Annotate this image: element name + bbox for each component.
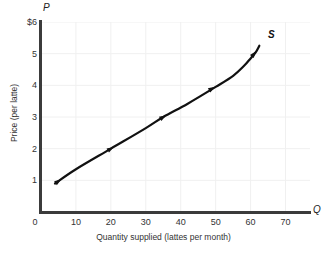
y-axis-line bbox=[39, 20, 42, 214]
x-tick-label: 70 bbox=[281, 217, 291, 227]
y-tick-label: $6 bbox=[27, 17, 37, 27]
x-tick-label: 60 bbox=[246, 217, 256, 227]
supply-curve-layer bbox=[41, 22, 310, 212]
x-tick-label: 10 bbox=[71, 217, 81, 227]
y-axis-title: Price (per latte) bbox=[9, 53, 19, 173]
y-tick-label: 5 bbox=[32, 49, 37, 59]
plot-area bbox=[41, 22, 310, 212]
x-axis-title: Quantity supplied (lattes per month) bbox=[0, 232, 327, 242]
y-tick-label: 3 bbox=[32, 112, 37, 122]
y-tick-label: 4 bbox=[32, 80, 37, 90]
y-tick-label: 2 bbox=[32, 144, 37, 154]
x-tick-label: 30 bbox=[141, 217, 151, 227]
supply-curve-figure: P Q $654321 010203040506070 S Quantity s… bbox=[0, 0, 327, 255]
supply-curve-label: S bbox=[268, 29, 275, 40]
y-tick-label: 1 bbox=[32, 175, 37, 185]
quantity-axis-symbol: Q bbox=[313, 204, 321, 215]
x-tick-label: 40 bbox=[176, 217, 186, 227]
supply-curve-path bbox=[55, 46, 259, 184]
x-axis-line bbox=[39, 211, 311, 214]
price-axis-symbol: P bbox=[43, 2, 50, 13]
x-tick-label: 0 bbox=[32, 217, 37, 227]
x-tick-label: 50 bbox=[211, 217, 221, 227]
x-tick-label: 20 bbox=[106, 217, 116, 227]
